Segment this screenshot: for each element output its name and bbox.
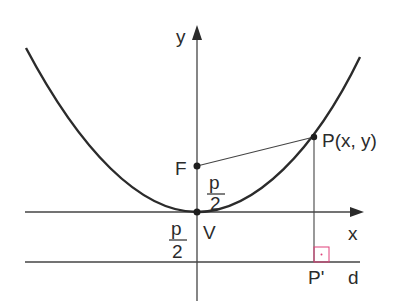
- vertex-point: [194, 209, 201, 216]
- right-angle-dot: [321, 254, 323, 256]
- directrix-label: d: [348, 267, 359, 288]
- focus-distance-denominator: 2: [210, 193, 221, 214]
- parabola-diagram: y x F V P(x, y) P' d p 2 p 2: [0, 0, 400, 301]
- point-p: [311, 134, 317, 140]
- directrix-distance-denominator: 2: [172, 241, 183, 262]
- focus-to-point-segment: [197, 137, 314, 166]
- point-label: P(x, y): [322, 130, 377, 151]
- focus-point: [194, 163, 201, 170]
- x-axis-arrow-icon: [350, 207, 364, 217]
- parabola-curve: [26, 48, 360, 268]
- projection-label: P': [308, 267, 324, 288]
- parabola-curve-smooth: [26, 48, 360, 212]
- y-axis-label: y: [176, 26, 186, 47]
- vertex-label: V: [203, 222, 216, 243]
- y-axis-arrow-icon: [192, 25, 202, 40]
- focus-label: F: [175, 158, 187, 179]
- focus-distance-numerator: p: [209, 172, 220, 193]
- x-axis-label: x: [348, 223, 358, 244]
- directrix-distance-numerator: p: [171, 218, 182, 239]
